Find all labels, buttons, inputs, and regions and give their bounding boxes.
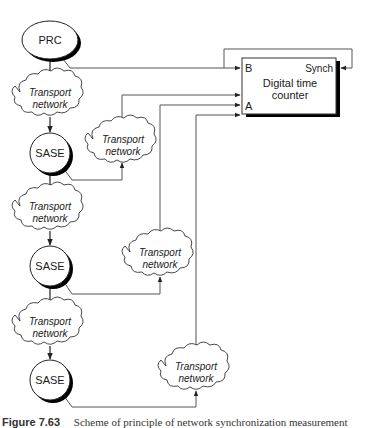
digital-time-counter: B Synch Digital time counter A: [242, 58, 340, 117]
sase-node-3: SASE: [30, 360, 73, 403]
cloud-label-line2: network: [142, 259, 178, 270]
chain-cloud-1: Transport network: [12, 68, 83, 115]
prc-node: PRC: [22, 21, 81, 62]
port-a-label: A: [245, 100, 253, 112]
return-cloud-2: Transport network: [122, 228, 193, 275]
cloud-label-line1: Transport: [29, 87, 72, 98]
chain-cloud-3: Transport network: [12, 297, 83, 344]
cloud-label-line2: network: [178, 373, 214, 384]
sase-node-1: SASE: [30, 133, 73, 176]
cloud-label-line1: Transport: [175, 361, 218, 372]
figure-caption: Figure 7.63 Scheme of principle of netwo…: [2, 416, 366, 428]
port-b-label: B: [245, 62, 252, 74]
cloud-label-line2: network: [32, 328, 68, 339]
cloud-label-line1: Transport: [139, 247, 182, 258]
sase-node-2: SASE: [30, 246, 73, 289]
chain-cloud-2: Transport network: [12, 182, 83, 229]
counter-title-line1: Digital time: [263, 77, 317, 89]
counter-title-line2: counter: [272, 89, 309, 101]
cloud-label-line1: Transport: [29, 316, 72, 327]
cloud-label-line1: Transport: [102, 134, 145, 145]
return-cloud-1: Transport network: [85, 115, 156, 162]
sase-label: SASE: [35, 147, 64, 159]
figure-number: Figure 7.63: [2, 416, 60, 428]
figure-caption-sep: [63, 416, 71, 428]
diagram-canvas: PRC Transport network Transport network …: [0, 0, 366, 428]
sase-label: SASE: [35, 260, 64, 272]
cloud-label-line2: network: [32, 99, 68, 110]
sase-label: SASE: [35, 374, 64, 386]
return-cloud-3: Transport network: [158, 342, 229, 389]
cloud-label-line2: network: [32, 213, 68, 224]
port-synch-label: Synch: [305, 63, 333, 74]
figure-caption-text: Scheme of principle of network synchroni…: [74, 416, 348, 428]
prc-label: PRC: [38, 34, 61, 46]
cloud-label-line2: network: [105, 146, 141, 157]
cloud-label-line1: Transport: [29, 201, 72, 212]
